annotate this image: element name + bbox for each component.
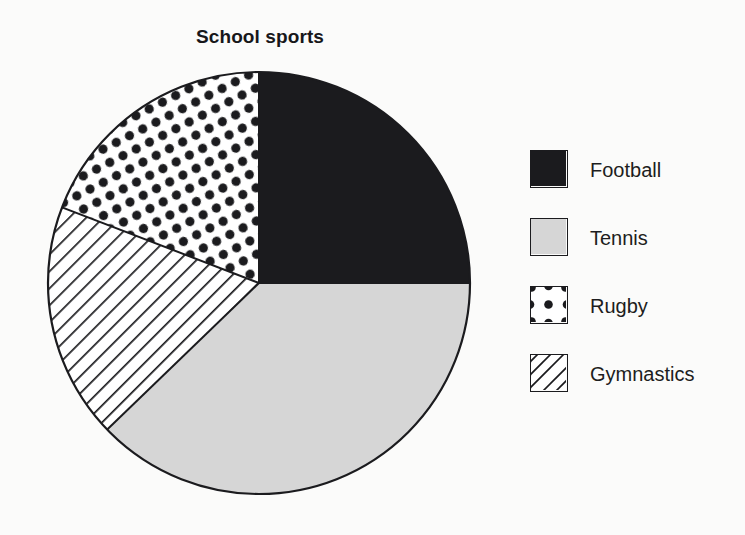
legend-label-tennis: Tennis (590, 227, 648, 250)
legend-label-rugby: Rugby (590, 295, 648, 318)
legend-item-gymnastics[interactable]: Gymnastics (530, 354, 735, 394)
diagonal-hatch-swatch-icon (530, 354, 568, 392)
solid-black-swatch-icon (530, 150, 568, 188)
chart-canvas: School sports (0, 0, 745, 535)
polka-dot-swatch-icon (530, 286, 568, 324)
pie-chart (46, 70, 472, 496)
legend-label-gymnastics: Gymnastics (590, 363, 694, 386)
pie-chart-svg (46, 70, 472, 496)
legend-item-rugby[interactable]: Rugby (530, 286, 735, 326)
page-title: School sports (0, 26, 520, 48)
legend-item-football[interactable]: Football (530, 150, 735, 190)
chart-legend: Football Tennis (530, 150, 735, 422)
light-gray-swatch-icon (530, 218, 568, 256)
legend-label-football: Football (590, 159, 661, 182)
legend-item-tennis[interactable]: Tennis (530, 218, 735, 258)
pie-slice-football[interactable] (259, 72, 470, 283)
